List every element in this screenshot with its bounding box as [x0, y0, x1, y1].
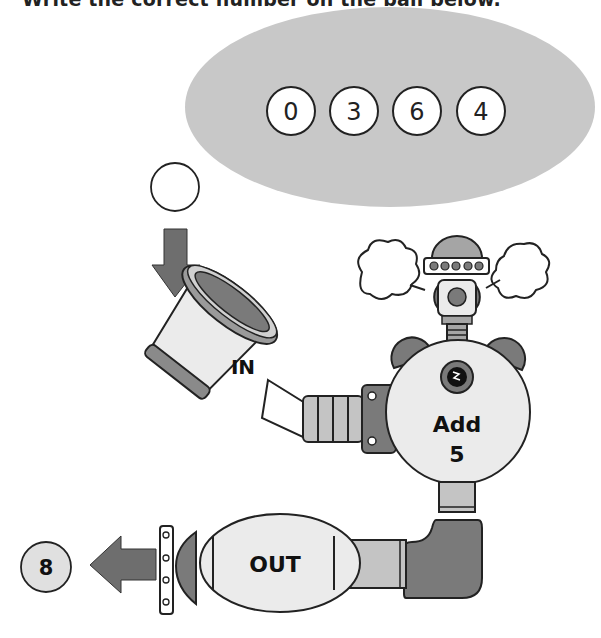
- option-label: 4: [473, 98, 488, 126]
- output-label: OUT: [249, 552, 301, 577]
- option-label: 6: [409, 98, 424, 126]
- input-label: IN: [231, 355, 255, 379]
- output-ball-value: 8: [39, 556, 54, 580]
- operation-label: Add: [433, 412, 482, 437]
- input-funnel: IN: [127, 253, 287, 413]
- operation-machine: Add 5: [386, 337, 530, 484]
- output-ball: 8: [21, 542, 71, 592]
- option-ball-0[interactable]: 0: [267, 87, 315, 135]
- option-ball-4[interactable]: 4: [457, 87, 505, 135]
- option-label: 0: [283, 98, 298, 126]
- output-capsule: OUT: [160, 514, 360, 614]
- input-pipe: [262, 380, 396, 453]
- input-ball[interactable]: [151, 163, 199, 211]
- option-ball-6[interactable]: 6: [393, 87, 441, 135]
- options-cloud: [185, 7, 595, 207]
- option-label: 3: [346, 98, 361, 126]
- option-ball-3[interactable]: 3: [330, 87, 378, 135]
- left-arrow-icon: [90, 536, 156, 593]
- output-pipe: [342, 482, 482, 598]
- machine-head: [358, 236, 549, 352]
- operation-value: 5: [449, 442, 464, 467]
